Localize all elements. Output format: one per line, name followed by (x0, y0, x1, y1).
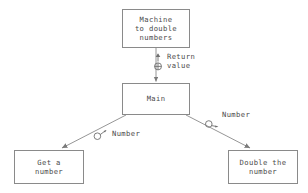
data-flow-circle-arrow-icon-left (93, 128, 109, 141)
node-main[interactable]: Main (122, 83, 190, 115)
edge-label-number-right: Number (222, 110, 250, 119)
data-flow-circle-arrow-icon-right (205, 119, 221, 132)
edge-label-return-value: Return value (167, 52, 195, 70)
edge-label-number-left: Number (112, 129, 140, 138)
node-get-a-number[interactable]: Get a number (14, 150, 84, 184)
node-machine-to-double-numbers[interactable]: Machine to double numbers (122, 9, 190, 48)
circled-plus-icon (155, 63, 162, 70)
return-value-marker-group (153, 52, 167, 74)
up-arrow-icon (156, 53, 161, 61)
structure-chart-canvas: Machine to double numbers Main Get a num… (0, 0, 308, 193)
node-double-the-number[interactable]: Double the number (228, 150, 298, 184)
